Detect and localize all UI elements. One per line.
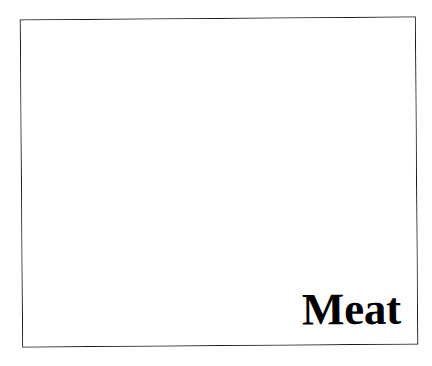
card-caption-label: Meat <box>302 287 401 333</box>
card-frame: Meat <box>20 17 418 348</box>
image-canvas: Meat <box>0 0 432 366</box>
caption-area: Meat <box>302 287 401 333</box>
